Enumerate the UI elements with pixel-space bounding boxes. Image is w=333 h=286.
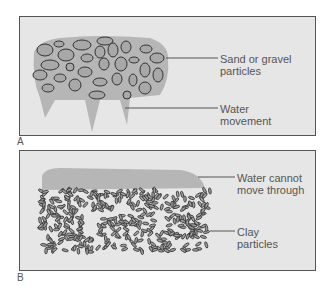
diagram-illustration	[0, 0, 333, 286]
label-clay-particles: Clayparticles	[237, 226, 278, 250]
water-layer-b	[42, 168, 205, 190]
panel-letter-a: A	[17, 136, 24, 147]
panel-letter-b: B	[17, 272, 24, 283]
clay-particles	[37, 187, 211, 255]
label-sand-gravel: Sand or gravelparticles	[220, 53, 292, 77]
label-water-cannot-move: Water cannotmove through	[237, 172, 304, 196]
label-water-movement: Watermovement	[220, 103, 271, 127]
